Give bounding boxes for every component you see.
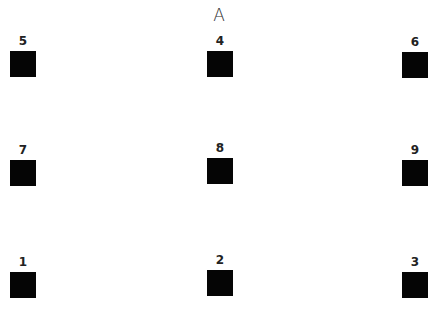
grid-cell-8: 8 bbox=[205, 141, 235, 184]
cell-label: 9 bbox=[400, 143, 430, 157]
grid-cell-5: 5 bbox=[8, 34, 38, 77]
cell-label: 8 bbox=[205, 141, 235, 155]
black-square bbox=[207, 51, 233, 77]
grid-cell-6: 6 bbox=[400, 35, 430, 78]
cell-label: 3 bbox=[400, 255, 430, 269]
cell-label: 4 bbox=[205, 34, 235, 48]
grid-cell-3: 3 bbox=[400, 255, 430, 298]
cell-label: 5 bbox=[8, 34, 38, 48]
cell-label: 1 bbox=[8, 255, 38, 269]
black-square bbox=[207, 270, 233, 296]
black-square bbox=[402, 160, 428, 186]
black-square bbox=[10, 272, 36, 298]
grid-cell-1: 1 bbox=[8, 255, 38, 298]
grid-cell-2: 2 bbox=[205, 253, 235, 296]
diagram-title: A bbox=[211, 5, 227, 25]
black-square bbox=[10, 160, 36, 186]
grid-cell-4: 4 bbox=[205, 34, 235, 77]
black-square bbox=[402, 52, 428, 78]
cell-label: 2 bbox=[205, 253, 235, 267]
grid-cell-9: 9 bbox=[400, 143, 430, 186]
cell-label: 7 bbox=[8, 143, 38, 157]
black-square bbox=[207, 158, 233, 184]
cell-label: 6 bbox=[400, 35, 430, 49]
black-square bbox=[10, 51, 36, 77]
grid-cell-7: 7 bbox=[8, 143, 38, 186]
black-square bbox=[402, 272, 428, 298]
